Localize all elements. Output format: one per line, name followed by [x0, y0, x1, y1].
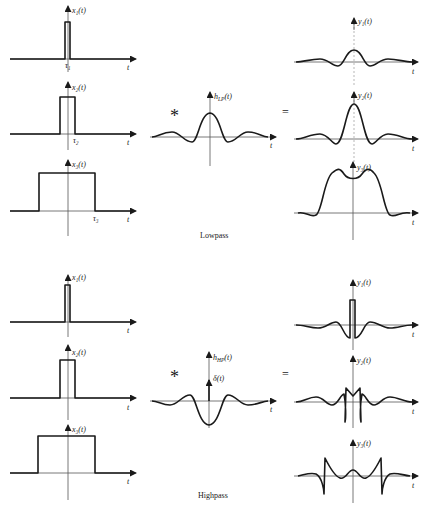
t-axis-label: t	[127, 326, 130, 335]
filter-hlp-label: hLP(t)	[214, 92, 232, 102]
highpass-section: x₁(t) t x₂(t) t x₃(t) t * hHP(t)	[10, 273, 418, 503]
equals-operator: =	[282, 367, 289, 381]
t-axis-label: t	[127, 63, 130, 72]
highpass-output-y2-plot: y₂(t) t	[294, 356, 418, 428]
highpass-input-x2-plot: x₂(t) t	[10, 345, 136, 420]
output-y2-label: y₂(t)	[357, 91, 372, 100]
t-axis-label: t	[412, 67, 415, 76]
input-x2-label: x₂(t)	[71, 83, 86, 92]
lowpass-caption: Lowpass	[200, 231, 228, 240]
t-axis-label: t	[270, 405, 273, 414]
t-axis-label: t	[127, 138, 130, 147]
t-axis-label: t	[127, 477, 130, 486]
tau1-label: τ₁	[65, 61, 71, 70]
highpass-input-x1-plot: x₁(t) t	[10, 273, 136, 337]
input-x1-label: x₁(t)	[71, 6, 86, 15]
lowpass-input-x3-plot: x₃(t) τ₃ t	[10, 160, 136, 236]
output-y2-label: y₂(t)	[356, 356, 371, 365]
convolution-diagram: x₁(t) τ₁ t x₂(t) τ₂ t x₃(t) τ₃ t *	[0, 0, 432, 513]
output-y3-label: y₃(t)	[356, 439, 371, 448]
filter-hhp-label: hHP(t)	[213, 353, 232, 363]
lowpass-output-y2-plot: y₂(t) t	[294, 91, 418, 166]
t-axis-label: t	[412, 144, 415, 153]
tau3-label: τ₃	[93, 214, 99, 223]
convolve-operator: *	[170, 367, 179, 387]
t-axis-label: t	[412, 218, 415, 227]
t-axis-label: t	[127, 403, 130, 412]
lowpass-output-y3-plot: y₃(t) t	[294, 162, 418, 240]
lowpass-input-x1-plot: x₁(t) τ₁ t	[10, 6, 136, 72]
input-x2-label: x₂(t)	[71, 348, 86, 357]
output-y1-label: y₁(t)	[356, 278, 371, 287]
lowpass-section: x₁(t) τ₁ t x₂(t) τ₂ t x₃(t) τ₃ t *	[10, 6, 418, 240]
lowpass-input-x2-plot: x₂(t) τ₂ t	[10, 82, 136, 150]
t-axis-label: t	[270, 141, 273, 150]
tau2-label: τ₂	[73, 136, 79, 145]
delta-label: δ(t)	[213, 374, 225, 383]
t-axis-label: t	[127, 215, 130, 224]
input-x3-label: x₃(t)	[71, 425, 86, 434]
t-axis-label: t	[412, 330, 415, 339]
t-axis-label: t	[412, 481, 415, 490]
input-x1-label: x₁(t)	[71, 273, 86, 282]
highpass-caption: Highpass	[198, 491, 228, 500]
t-axis-label: t	[412, 407, 415, 416]
input-x3-label: x₃(t)	[71, 160, 86, 169]
lowpass-filter-plot: hLP(t) t	[150, 92, 276, 166]
highpass-input-x3-plot: x₃(t) t	[10, 425, 136, 500]
highpass-output-y3-plot: y₃(t) t	[294, 439, 418, 503]
output-y3-label: y₃(t)	[356, 163, 371, 172]
highpass-filter-plot: hHP(t) δ(t) t	[150, 352, 276, 428]
output-y1-label: y₁(t)	[357, 17, 372, 26]
lowpass-output-y1-plot: y₁(t) t	[294, 17, 418, 85]
equals-operator: =	[282, 105, 289, 119]
highpass-output-y1-plot: y₁(t) t	[294, 278, 418, 350]
convolve-operator: *	[170, 106, 179, 126]
